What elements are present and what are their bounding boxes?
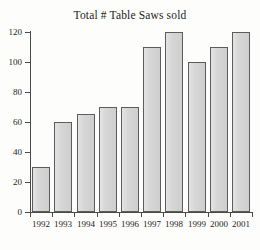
x-axis-tick bbox=[185, 212, 186, 217]
chart-title: Total # Table Saws sold bbox=[0, 9, 260, 21]
x-axis-tick bbox=[52, 212, 53, 217]
y-axis-tick-label: 0 bbox=[0, 208, 22, 217]
y-axis-tick-label: 20 bbox=[0, 178, 22, 187]
x-axis-tick bbox=[119, 212, 120, 217]
x-axis-tick bbox=[230, 212, 231, 217]
bar-chart-figure: Total # Table Saws sold 020406080100120 … bbox=[0, 0, 260, 250]
x-axis-tick bbox=[74, 212, 75, 217]
bar bbox=[143, 47, 161, 212]
bar bbox=[77, 114, 95, 212]
bar bbox=[99, 107, 117, 212]
plot-area bbox=[30, 32, 252, 212]
x-axis-tick bbox=[30, 212, 31, 217]
x-axis-tick bbox=[141, 212, 142, 217]
x-axis-tick bbox=[163, 212, 164, 217]
y-axis-tick-label: 100 bbox=[0, 58, 22, 67]
y-axis-tick-label: 60 bbox=[0, 118, 22, 127]
y-axis-tick-label: 40 bbox=[0, 148, 22, 157]
bar bbox=[121, 107, 139, 212]
x-axis-tick bbox=[252, 212, 253, 217]
bar bbox=[165, 32, 183, 212]
x-axis-tick bbox=[208, 212, 209, 217]
bar bbox=[32, 167, 50, 212]
bar bbox=[188, 62, 206, 212]
y-axis-tick-label: 120 bbox=[0, 28, 22, 37]
bar bbox=[210, 47, 228, 212]
bar bbox=[232, 32, 250, 212]
y-axis-tick-label: 80 bbox=[0, 88, 22, 97]
bar bbox=[54, 122, 72, 212]
x-axis-tick-label: 2001 bbox=[228, 219, 254, 229]
x-axis-tick bbox=[97, 212, 98, 217]
